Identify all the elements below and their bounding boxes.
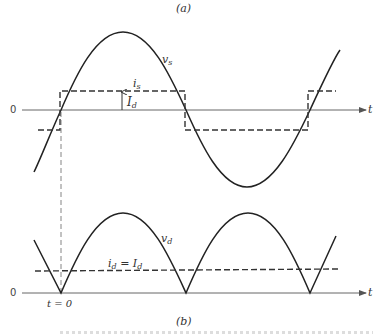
is-label: is bbox=[133, 78, 141, 91]
panel-a-zero-label: 0 bbox=[10, 105, 16, 115]
t0-label: t = 0 bbox=[47, 299, 72, 309]
vd-label: vd bbox=[161, 233, 172, 246]
id-eq-label: id = Id bbox=[108, 258, 142, 271]
panel-a-label: (a) bbox=[176, 3, 191, 14]
cut-off-caption bbox=[60, 331, 373, 334]
id-eq-text: = I bbox=[117, 257, 138, 270]
rectifier-waveform-diagram bbox=[0, 0, 377, 335]
Id-label-sub: d bbox=[132, 101, 137, 110]
vs-label: vs bbox=[162, 54, 172, 67]
panel-b-label: (b) bbox=[176, 316, 192, 327]
vs-label-sub: s bbox=[168, 58, 172, 67]
panel-b-t-label: t bbox=[368, 287, 372, 298]
panel-b-zero-label: 0 bbox=[10, 288, 16, 298]
is-label-sub: s bbox=[137, 82, 141, 91]
panel-a-t-label: t bbox=[368, 104, 372, 115]
Id-label: Id bbox=[127, 96, 137, 110]
id-eq-sub: d bbox=[137, 262, 142, 271]
id-dc-current-line bbox=[35, 269, 340, 271]
vd-rectified-waveform bbox=[34, 213, 336, 293]
vd-label-sub: d bbox=[167, 237, 172, 246]
